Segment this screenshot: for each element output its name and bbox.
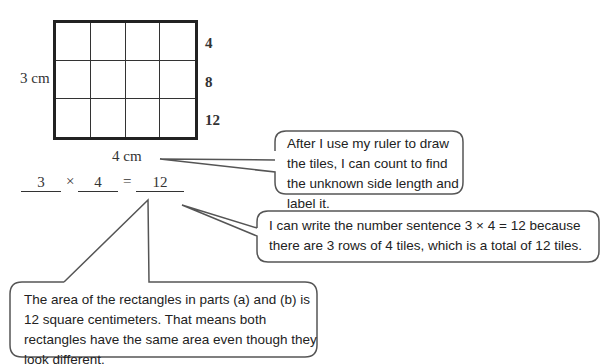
callout-3-text: The area of the rectangles in parts (a) … xyxy=(24,290,317,364)
tile xyxy=(160,23,195,61)
side-label-left: 3 cm xyxy=(20,70,50,87)
tile xyxy=(126,23,161,61)
tile xyxy=(160,99,195,137)
tile xyxy=(91,61,126,99)
equals-sign: = xyxy=(123,173,131,190)
callout-2-text: I can write the number sentence 3 × 4 = … xyxy=(269,216,599,256)
equation-factor-2: 4 xyxy=(78,173,118,192)
tile xyxy=(56,99,91,137)
tile xyxy=(91,23,126,61)
equation-factor-1: 3 xyxy=(21,173,61,192)
tile xyxy=(126,99,161,137)
tile xyxy=(56,23,91,61)
tile xyxy=(160,61,195,99)
tile xyxy=(56,61,91,99)
row-count-1: 4 xyxy=(205,35,213,52)
rectangle-grid xyxy=(53,20,198,140)
row-count-3: 12 xyxy=(205,112,220,129)
side-label-bottom: 4 cm xyxy=(112,148,142,165)
tile xyxy=(126,61,161,99)
times-sign: × xyxy=(66,173,74,190)
row-count-2: 8 xyxy=(205,74,213,91)
equation-product: 12 xyxy=(136,173,184,192)
callout-1-text: After I use my ruler to draw the tiles, … xyxy=(287,134,459,214)
tile xyxy=(91,99,126,137)
